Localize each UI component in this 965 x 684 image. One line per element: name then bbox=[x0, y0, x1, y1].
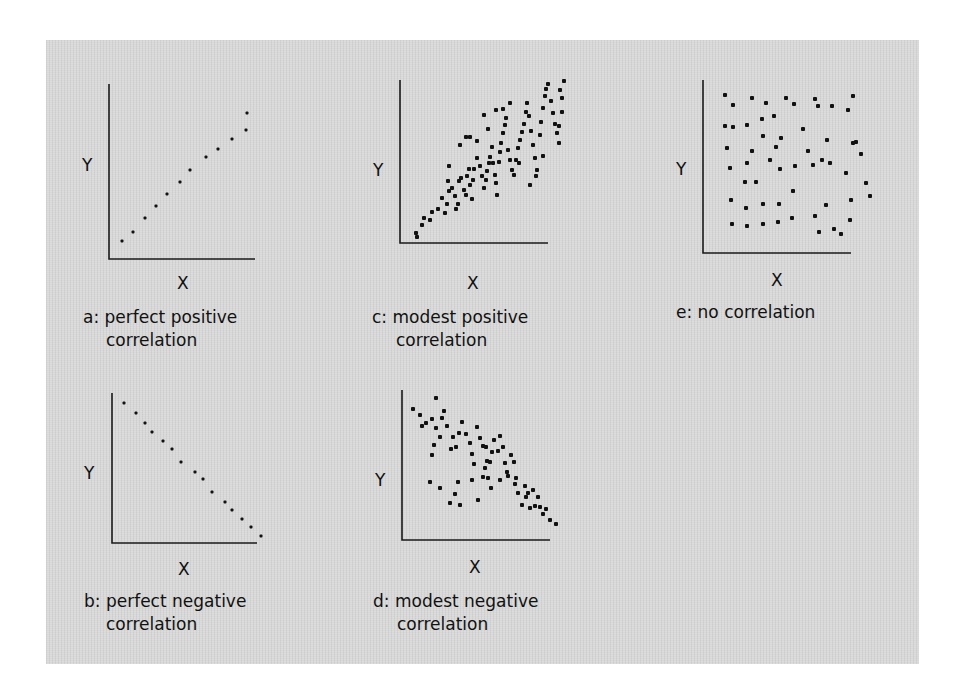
data-point bbox=[457, 431, 461, 435]
data-point bbox=[454, 445, 458, 449]
data-point bbox=[458, 503, 462, 507]
data-point bbox=[211, 491, 214, 494]
caption-d-line1: d: modest negative bbox=[373, 590, 538, 612]
data-point bbox=[531, 143, 535, 147]
data-point bbox=[512, 173, 516, 177]
data-point bbox=[849, 198, 853, 202]
data-point bbox=[832, 227, 836, 231]
data-point bbox=[189, 169, 192, 172]
axes-a bbox=[109, 84, 255, 259]
data-point bbox=[528, 506, 532, 510]
data-point bbox=[777, 202, 781, 206]
data-point bbox=[544, 87, 548, 91]
data-point bbox=[801, 127, 805, 131]
data-point bbox=[555, 131, 559, 135]
data-point bbox=[495, 193, 499, 197]
data-point bbox=[484, 445, 488, 449]
data-point bbox=[499, 141, 503, 145]
data-point bbox=[525, 101, 529, 105]
data-point bbox=[509, 453, 513, 457]
data-point bbox=[471, 178, 475, 182]
data-point bbox=[743, 180, 747, 184]
data-point bbox=[430, 417, 434, 421]
data-point bbox=[481, 475, 485, 479]
data-point bbox=[527, 114, 531, 118]
data-point bbox=[774, 145, 778, 149]
data-point bbox=[503, 461, 507, 465]
data-point bbox=[506, 148, 510, 152]
data-point bbox=[745, 123, 749, 127]
data-point bbox=[217, 148, 220, 151]
data-point bbox=[790, 216, 794, 220]
data-point bbox=[450, 186, 454, 190]
x-axis-label-e: X bbox=[771, 269, 783, 291]
data-point bbox=[560, 96, 564, 100]
data-point bbox=[144, 422, 147, 425]
data-point bbox=[445, 202, 449, 206]
data-point bbox=[792, 102, 796, 106]
data-point bbox=[420, 424, 424, 428]
data-point bbox=[779, 136, 783, 140]
data-point bbox=[549, 99, 553, 103]
data-point bbox=[472, 167, 476, 171]
data-point bbox=[456, 480, 460, 484]
data-point bbox=[132, 231, 135, 234]
data-point bbox=[438, 486, 442, 490]
data-point bbox=[539, 120, 543, 124]
data-point bbox=[231, 509, 234, 512]
data-point bbox=[470, 452, 474, 456]
data-point bbox=[459, 176, 463, 180]
data-point bbox=[535, 168, 539, 172]
data-point bbox=[428, 218, 432, 222]
data-point bbox=[472, 462, 476, 466]
data-point bbox=[494, 181, 498, 185]
data-point bbox=[524, 495, 528, 499]
data-point bbox=[454, 207, 458, 211]
data-point bbox=[828, 161, 832, 165]
data-point bbox=[448, 501, 452, 505]
data-point bbox=[151, 431, 154, 434]
data-point bbox=[750, 96, 754, 100]
scatter-plot-e bbox=[703, 80, 872, 253]
data-point bbox=[205, 156, 208, 159]
data-point bbox=[464, 135, 468, 139]
y-axis-label-c: Y bbox=[373, 159, 383, 181]
data-point bbox=[526, 491, 530, 495]
data-point bbox=[520, 503, 524, 507]
data-point bbox=[436, 207, 440, 211]
data-point bbox=[538, 505, 542, 509]
data-point bbox=[456, 202, 460, 206]
data-point bbox=[729, 198, 733, 202]
data-point bbox=[155, 205, 158, 208]
caption-e-line1: e: no correlation bbox=[676, 301, 815, 323]
data-point bbox=[728, 166, 732, 170]
data-point bbox=[506, 474, 510, 478]
data-point bbox=[498, 434, 502, 438]
data-point bbox=[415, 235, 419, 239]
data-point bbox=[494, 108, 498, 112]
data-point bbox=[464, 432, 468, 436]
data-point bbox=[531, 488, 535, 492]
data-point bbox=[523, 484, 527, 488]
caption-a-line2: correlation bbox=[106, 329, 197, 351]
scatter-plot-b bbox=[112, 393, 263, 543]
data-point bbox=[504, 116, 508, 120]
x-axis-label-d: X bbox=[469, 556, 481, 578]
data-point bbox=[492, 438, 496, 442]
data-point bbox=[440, 416, 444, 420]
data-point bbox=[764, 101, 768, 105]
data-point bbox=[484, 178, 488, 182]
data-point bbox=[476, 498, 480, 502]
data-point bbox=[536, 495, 540, 499]
data-point bbox=[551, 111, 555, 115]
data-point bbox=[434, 426, 438, 430]
data-point bbox=[820, 158, 824, 162]
data-point bbox=[443, 211, 447, 215]
data-point bbox=[194, 471, 197, 474]
data-point bbox=[422, 216, 426, 220]
data-point bbox=[460, 420, 464, 424]
data-point bbox=[428, 480, 432, 484]
data-point bbox=[480, 174, 484, 178]
data-point bbox=[424, 421, 428, 425]
data-point bbox=[496, 449, 500, 453]
